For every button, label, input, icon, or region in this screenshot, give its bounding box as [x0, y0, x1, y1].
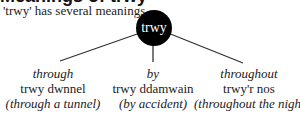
- branch-through: through trwy dwnnel (through a tunnel): [0, 66, 106, 111]
- branch-throughout: throughout trwy'r nos (throughout the ni…: [194, 66, 300, 111]
- gloss: (throughout the night): [194, 96, 300, 111]
- meaning: throughout: [194, 66, 300, 81]
- gloss: (through a tunnel): [0, 96, 106, 111]
- meaning: through: [0, 66, 106, 81]
- root-node: trwy: [136, 10, 172, 46]
- example: trwy'r nos: [194, 81, 300, 96]
- example: trwy dwnnel: [0, 81, 106, 96]
- meaning: by: [101, 66, 205, 81]
- root-label: trwy: [141, 20, 167, 36]
- gloss: (by accident): [101, 96, 205, 111]
- example: trwy ddamwain: [101, 81, 205, 96]
- branch-by: by trwy ddamwain (by accident): [101, 66, 205, 111]
